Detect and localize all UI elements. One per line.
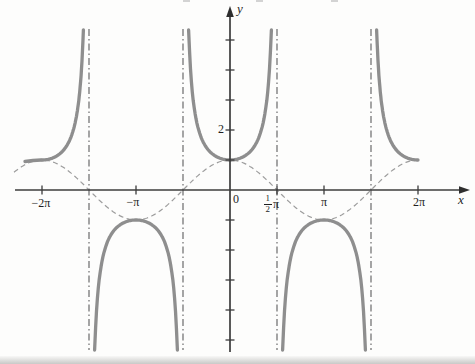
x-axis-label: x <box>458 193 464 207</box>
one-half-fraction: 12 <box>264 194 272 215</box>
scan-artifact <box>331 0 338 2</box>
x-tick-label-half-pi: 12π <box>264 194 279 215</box>
fraction-pi-suffix: π <box>273 198 279 211</box>
x-tick-label-neg-2pi: −2π <box>24 197 58 210</box>
page-edge-shadow <box>0 356 475 364</box>
x-tick-label-neg-pi: −π <box>118 196 148 209</box>
y-axis-label: y <box>237 2 243 16</box>
origin-label: 0 <box>233 193 245 206</box>
figure-canvas: −2π −π 12π π 2π 0 2 x y <box>0 0 475 364</box>
scan-artifact <box>183 0 190 2</box>
fraction-denominator: 2 <box>266 205 271 215</box>
sec-cos-plot <box>0 0 475 364</box>
x-tick-label-2pi: 2π <box>407 196 431 209</box>
fraction-numerator: 1 <box>264 194 272 205</box>
x-tick-label-pi: π <box>317 196 331 209</box>
scan-artifact <box>256 0 263 2</box>
y-tick-label-2: 2 <box>210 123 224 136</box>
